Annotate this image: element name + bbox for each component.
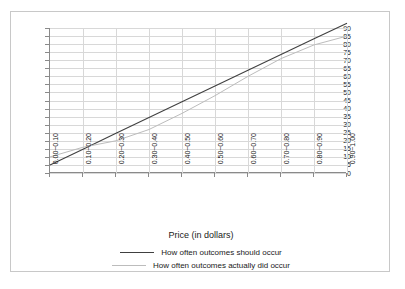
x-tick-label: 0.30~0.40 (151, 133, 159, 179)
x-tick-label: 0.60~0.70 (250, 133, 258, 179)
x-tick-mark (82, 173, 83, 177)
x-tick-label: 0.40~0.50 (184, 133, 192, 179)
series-lines (50, 28, 347, 173)
x-tick-mark (148, 173, 149, 177)
plot-wrapper: 051015202530354045505560657075808590 0.0… (11, 12, 391, 273)
series-line-1 (50, 36, 347, 157)
legend-item[interactable]: How often outcomes actually did occur (11, 259, 391, 272)
x-tick-mark (247, 173, 248, 177)
chart-legend: How often outcomes should occur How ofte… (11, 246, 391, 272)
x-tick-label: 0.00~0.10 (52, 133, 60, 179)
x-tick-label: 0.90~1.00 (349, 133, 357, 179)
legend-label-should-occur: How often outcomes should occur (161, 248, 282, 257)
gridline-vertical (347, 28, 348, 173)
x-tick-mark (49, 173, 50, 177)
gridline-horizontal (50, 173, 347, 174)
x-tick-label: 0.50~0.60 (217, 133, 225, 179)
legend-swatch-should-occur (120, 252, 154, 253)
series-line-0 (50, 23, 347, 165)
chart-frame: 051015202530354045505560657075808590 0.0… (10, 11, 390, 272)
x-tick-label: 0.20~0.30 (118, 133, 126, 179)
x-tick-label: 0.70~0.80 (283, 133, 291, 179)
legend-swatch-actually-occurred (112, 265, 146, 266)
legend-item[interactable]: How often outcomes should occur (11, 246, 391, 259)
x-tick-mark (181, 173, 182, 177)
x-tick-label: 0.10~0.20 (85, 133, 93, 179)
x-axis-title: Price (in dollars) (11, 230, 391, 240)
x-tick-mark (115, 173, 116, 177)
x-tick-mark (313, 173, 314, 177)
plot-area (49, 28, 346, 173)
legend-label-actually-occurred: How often outcomes actually did occur (153, 261, 290, 270)
x-tick-mark (214, 173, 215, 177)
x-tick-mark (280, 173, 281, 177)
x-tick-label: 0.80~0.90 (316, 133, 324, 179)
x-tick-mark (346, 173, 347, 177)
